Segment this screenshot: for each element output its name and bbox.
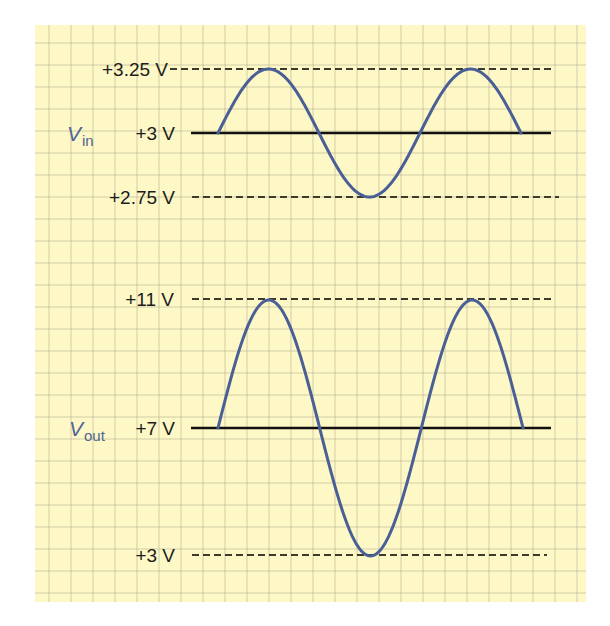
- waveform-plot: [0, 0, 610, 626]
- vout-graph: [191, 299, 551, 556]
- amplifier-waveform-figure: +3.25 V Vin +3 V +2.75 V +11 V Vout +7 V…: [0, 0, 610, 626]
- vin-graph: [170, 69, 559, 197]
